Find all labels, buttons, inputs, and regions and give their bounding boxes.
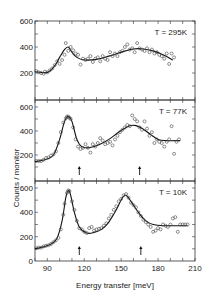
data-point [168, 62, 171, 65]
data-point [116, 55, 119, 58]
panel-2: 200400600T = 77K [20, 100, 195, 181]
data-point [109, 140, 112, 143]
y-tick-label: 600 [20, 184, 34, 193]
x-tick-label: 120 [78, 264, 92, 273]
data-point [136, 120, 139, 123]
data-point [133, 118, 136, 121]
data-point [69, 46, 72, 49]
data-point [114, 138, 117, 141]
data-point [63, 53, 66, 56]
data-point [111, 144, 114, 147]
data-point [148, 134, 151, 137]
data-point [160, 142, 163, 145]
data-point [150, 131, 153, 134]
panel-1: 200400600T = 295K [20, 17, 195, 100]
data-point [61, 59, 64, 62]
data-point [148, 51, 151, 54]
y-tick-label: 200 [20, 233, 34, 242]
data-point [173, 56, 176, 59]
data-point [96, 56, 99, 59]
data-point [99, 137, 102, 140]
data-point [149, 225, 152, 228]
data-point [116, 134, 119, 137]
data-point [160, 55, 163, 58]
data-point [159, 228, 162, 231]
data-point [91, 143, 94, 146]
x-tick-label: 90 [43, 264, 52, 273]
data-point [58, 62, 61, 65]
data-point [153, 142, 156, 145]
data-point [170, 52, 173, 55]
y-tick-label: 400 [20, 127, 34, 136]
y-tick-label: 600 [20, 103, 34, 112]
data-point [133, 51, 136, 54]
data-point [67, 49, 70, 52]
data-point [99, 60, 102, 63]
data-point [136, 42, 139, 45]
chart-panels: 200400600T = 295K200400600T = 77K0200400… [20, 17, 203, 273]
data-point [77, 53, 80, 56]
data-point [147, 223, 150, 226]
data-point [101, 139, 104, 142]
data-point [123, 46, 126, 49]
data-point [131, 114, 134, 117]
chart-figure: 200400600T = 295K200400600T = 77K0200400… [0, 0, 209, 302]
y-tick-label: 400 [20, 208, 34, 217]
y-axis-title: Counts / monitor [12, 148, 21, 207]
data-point [101, 55, 104, 58]
data-point [126, 43, 129, 46]
data-point [90, 225, 93, 228]
x-tick-label: 210 [188, 264, 202, 273]
data-point [143, 49, 146, 52]
data-point [174, 216, 177, 219]
x-tick-label: 150 [114, 264, 128, 273]
data-point [77, 145, 80, 148]
data-point [146, 127, 149, 130]
data-point [84, 143, 87, 146]
data-point [170, 125, 173, 128]
data-point [143, 120, 146, 123]
data-point [112, 208, 115, 211]
data-point [115, 205, 118, 208]
y-tick-label: 200 [20, 151, 34, 160]
data-point [89, 55, 92, 58]
data-point [176, 230, 179, 233]
y-tick-label: 600 [20, 17, 34, 26]
data-point [79, 63, 82, 66]
temperature-label: T = 10K [159, 188, 188, 197]
data-point [64, 42, 67, 45]
y-tick-label: 200 [20, 69, 34, 78]
data-point [91, 60, 94, 63]
data-point [107, 217, 110, 220]
y-tick-label: 400 [20, 43, 34, 52]
y-tick-label: 0 [29, 257, 34, 266]
data-point [89, 151, 92, 154]
data-point [96, 142, 99, 145]
data-point [173, 152, 176, 155]
data-point [154, 229, 157, 232]
data-point [106, 59, 109, 62]
data-point [117, 200, 120, 203]
x-tick-label: 180 [151, 264, 165, 273]
x-axis-title: Energy transfer [meV] [76, 281, 154, 290]
data-point [109, 51, 112, 54]
temperature-label: T = 295K [154, 28, 187, 37]
data-point [110, 213, 113, 216]
data-point [165, 52, 168, 55]
panel-3: 0200400600T = 10K90120150180210 [20, 181, 203, 273]
data-point [163, 57, 166, 60]
data-point [163, 145, 166, 148]
data-point [72, 49, 75, 52]
fit-curve [35, 190, 188, 248]
temperature-label: T = 77K [159, 107, 188, 116]
